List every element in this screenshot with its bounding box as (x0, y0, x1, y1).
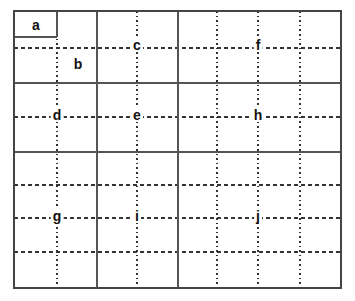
cell-label-b: b (72, 57, 85, 71)
cell-label-c: c (131, 38, 143, 52)
cell-label-h: h (252, 108, 265, 122)
cell-label-a: a (30, 18, 42, 32)
cell-label-e: e (131, 108, 143, 122)
cell-label-i: i (133, 209, 141, 223)
diagram-canvas: abcdefghij (0, 0, 355, 301)
cell-label-d: d (51, 108, 64, 122)
grid-line-layer (0, 0, 355, 301)
cell-label-g: g (51, 209, 64, 223)
cell-label-j: j (254, 209, 262, 223)
cell-label-f: f (254, 38, 263, 52)
